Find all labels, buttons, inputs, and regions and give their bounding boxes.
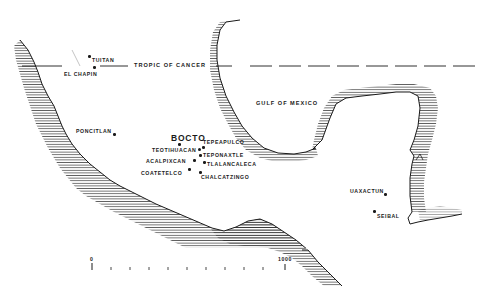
site-label-bocto: BOCTO — [171, 134, 206, 143]
site-label-chalcatzingo: CHALCATZINGO — [201, 175, 249, 180]
site-marker-el-chapin — [93, 66, 96, 69]
pacific-coast — [0, 40, 482, 301]
site-label-teotihuacan: TEOTIHUACAN — [152, 148, 196, 153]
map-canvas: TROPIC OF CANCER GULF OF MEXICO TUITAN E… — [0, 0, 482, 301]
site-marker-bocto — [178, 143, 181, 146]
site-marker-tepeapulco — [202, 146, 205, 149]
site-marker-tuitan — [88, 55, 91, 58]
coastline-drawing — [0, 0, 482, 301]
site-marker-coatetelco — [188, 168, 191, 171]
scale-start-label: 0 — [90, 257, 94, 262]
minor-line — [72, 50, 80, 66]
site-marker-seibal — [373, 210, 376, 213]
site-marker-uaxactun — [384, 193, 387, 196]
site-marker-acalpixcan — [193, 159, 196, 162]
yucatan-coast — [312, 84, 462, 224]
site-label-coatetelco: COATETELCO — [141, 171, 182, 176]
site-label-el-chapin: EL CHAPIN — [64, 72, 97, 77]
site-label-tepeapulco: TEPEAPULCO — [203, 140, 244, 145]
site-label-tuitan: TUITAN — [92, 58, 114, 63]
gulf-of-mexico-label: GULF OF MEXICO — [256, 101, 318, 107]
site-marker-tlalancaleca — [203, 161, 206, 164]
site-label-tlalancaleca: TLALANCALECA — [207, 162, 257, 167]
scale-end-label: 1000 — [278, 257, 292, 262]
site-label-teponaxtle: TEPONAXTLE — [203, 153, 244, 158]
site-marker-poncitlan — [113, 133, 116, 136]
site-label-uaxactun: UAXACTUN — [350, 189, 384, 194]
site-marker-teponaxtle — [199, 154, 202, 157]
site-label-poncitlan: PONCITLAN — [76, 129, 112, 134]
tropic-of-cancer-label: TROPIC OF CANCER — [134, 63, 206, 69]
site-label-acalpixcan: ACALPIXCAN — [146, 159, 186, 164]
site-label-seibal: SEIBAL — [377, 214, 400, 219]
